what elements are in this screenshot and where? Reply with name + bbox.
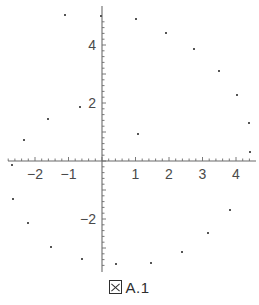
y-tick-label: −2 [80, 211, 96, 227]
data-point [12, 198, 14, 200]
data-point [137, 133, 139, 135]
x-tick-label: −2 [27, 166, 43, 182]
data-point [248, 122, 250, 124]
figure-caption-text: A.1 [125, 279, 149, 296]
data-points-group [11, 14, 251, 265]
data-point [115, 263, 117, 265]
scatter-plot: −2−11234 24−2 [0, 0, 259, 278]
y-tick-label: 2 [88, 95, 96, 111]
data-point [207, 232, 209, 234]
x-tick-label-group: −2−11234 [27, 166, 240, 182]
figure-caption: A.1 [0, 279, 259, 296]
data-point [193, 48, 195, 50]
data-point [135, 18, 137, 20]
data-point [165, 32, 167, 34]
data-point [64, 14, 66, 16]
x-tick-label: 1 [132, 166, 140, 182]
data-point [181, 251, 183, 253]
minor-tick-marks [8, 22, 249, 266]
x-tick-label: 4 [232, 166, 240, 182]
data-point [81, 258, 83, 260]
data-point [27, 222, 29, 224]
data-point [100, 15, 102, 17]
data-point [79, 106, 81, 108]
tofu-box-glyph-icon [109, 280, 122, 294]
x-tick-label: −1 [61, 166, 77, 182]
x-tick-label: 3 [199, 166, 207, 182]
data-point [249, 151, 251, 153]
data-point [47, 118, 49, 120]
x-tick-label: 2 [165, 166, 173, 182]
data-point [218, 70, 220, 72]
data-point [236, 94, 238, 96]
y-tick-label: 4 [88, 37, 96, 53]
data-point [150, 262, 152, 264]
data-point [229, 209, 231, 211]
data-point [11, 164, 13, 166]
y-tick-label-group: 24−2 [80, 37, 96, 227]
axes-group [8, 6, 256, 272]
data-point [50, 246, 52, 248]
figure-container: −2−11234 24−2 A.1 [0, 0, 259, 305]
data-point [23, 139, 25, 141]
